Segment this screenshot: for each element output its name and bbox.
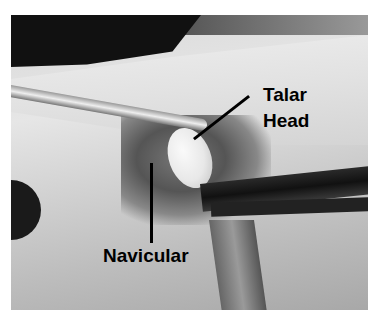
background-shadow: [181, 15, 368, 35]
label-head: Head: [263, 110, 309, 132]
label-talar: Talar: [263, 84, 307, 106]
surgical-photo: [11, 15, 368, 310]
label-navicular: Navicular: [103, 245, 189, 267]
retractor-blade: [209, 220, 268, 310]
navicular-leader-line: [150, 163, 153, 243]
dark-drape-left: [11, 180, 41, 240]
